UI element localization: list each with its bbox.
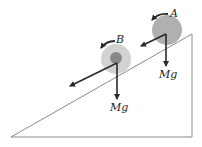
- ball-b-label: B: [115, 33, 124, 46]
- ball-b-inner: [110, 52, 122, 64]
- friction-arrow-b: [70, 63, 117, 86]
- weight-label-b: Mg: [109, 101, 128, 114]
- incline-diagram: A Mg B Mg: [0, 0, 202, 147]
- ball-a-label: A: [169, 7, 178, 20]
- weight-label-a: Mg: [158, 68, 177, 81]
- incline-plane: [11, 34, 192, 137]
- ball-a: A Mg: [141, 7, 182, 81]
